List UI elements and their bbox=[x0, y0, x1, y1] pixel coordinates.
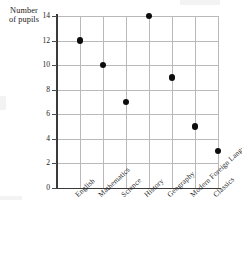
data-point bbox=[215, 148, 221, 154]
gridline-horizontal bbox=[57, 90, 218, 91]
scan-artifact bbox=[0, 96, 6, 110]
y-axis-tick bbox=[52, 90, 57, 91]
y-axis-tick bbox=[52, 163, 57, 164]
gridline-horizontal bbox=[57, 163, 218, 164]
y-axis-tick-label: 10 bbox=[36, 61, 50, 69]
y-axis-tick-label: 12 bbox=[36, 37, 50, 45]
y-axis-tick bbox=[52, 65, 57, 66]
y-axis-tick bbox=[52, 139, 57, 140]
gridline-vertical bbox=[195, 16, 196, 188]
gridline-horizontal bbox=[57, 139, 218, 140]
scan-artifact bbox=[180, 0, 220, 5]
y-axis-tick bbox=[52, 114, 57, 115]
gridline-horizontal bbox=[57, 16, 218, 17]
gridline-vertical bbox=[172, 16, 173, 188]
y-axis-tick-label: 4 bbox=[36, 135, 50, 143]
gridline-vertical bbox=[149, 16, 150, 188]
y-axis-tick-label: 2 bbox=[36, 159, 50, 167]
y-axis-tick bbox=[52, 41, 57, 42]
y-axis-tick-label: 14 bbox=[36, 12, 50, 20]
y-axis-tick bbox=[52, 188, 57, 189]
gridline-horizontal bbox=[57, 114, 218, 115]
data-point bbox=[77, 37, 83, 43]
y-axis-tick-label: 6 bbox=[36, 110, 50, 118]
y-axis-tick-label: 8 bbox=[36, 86, 50, 94]
scatter-chart: Number of pupils 02468101214EnglishMathe… bbox=[0, 0, 242, 277]
data-point bbox=[169, 74, 175, 80]
scan-artifact bbox=[0, 196, 22, 200]
y-axis-tick bbox=[52, 16, 57, 17]
data-point bbox=[192, 123, 198, 129]
gridline-horizontal bbox=[57, 65, 218, 66]
gridline-vertical bbox=[103, 16, 104, 188]
y-axis-tick-label: 0 bbox=[36, 184, 50, 192]
